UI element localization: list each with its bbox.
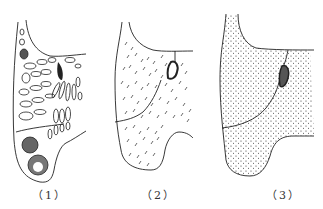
panel-1: （1） [0,0,105,209]
panel-1-drawing [0,0,105,209]
dot-texture [210,0,323,209]
panel-3: （3） [210,0,323,209]
panel-1-label: （1） [32,186,67,202]
panel-2-drawing [105,0,210,209]
panel-3-drawing [210,0,323,209]
panel-2-label: （2） [141,186,176,202]
panel-2: （2） [105,0,210,209]
panel-3-label: （3） [266,186,301,202]
dash-texture [121,42,191,166]
bone-section-figure: （1） （2） [0,0,323,209]
